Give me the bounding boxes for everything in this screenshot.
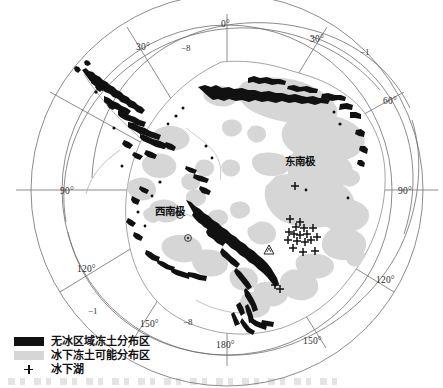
region-label: 西南极 [155, 206, 185, 217]
legend-label-subglacial-permafrost: 冰下冻土可能分布区 [51, 350, 150, 361]
graticule-label: 0° [221, 20, 230, 30]
contour-label: −8 [183, 318, 193, 327]
antarctica-permafrost-map-figure: 0°30°30°60°90°90°120°120°150°150°180° −8… [0, 0, 443, 388]
graticule-label: 90° [60, 187, 74, 197]
graticule-label: 180° [216, 341, 235, 351]
legend-item: 冰下冻土可能分布区 [14, 349, 204, 362]
region-label: 东南极 [285, 156, 315, 167]
graticule-label: 90° [398, 187, 412, 197]
graticule-label: 150° [303, 337, 322, 347]
legend-label-ice-free-permafrost: 无冰区域冻土分布区 [51, 336, 150, 347]
contour-label: −1 [360, 48, 370, 57]
legend-item: 无冰区域冻土分布区 [14, 335, 204, 348]
cropped-caption-strip [8, 378, 338, 385]
legend-item: 冰下湖 [14, 363, 204, 376]
graticule-label: 150° [140, 320, 159, 330]
graticule-label: 120° [77, 265, 96, 275]
map-legend: 无冰区域冻土分布区 冰下冻土可能分布区 冰下湖 [14, 335, 204, 377]
contour-label: −8 [181, 44, 191, 53]
legend-swatch-subglacial-permafrost [14, 351, 44, 360]
graticule-label: 30° [136, 43, 150, 53]
graticule-label: 60° [383, 97, 397, 107]
graticule-label: 30° [310, 35, 324, 45]
legend-swatch-subglacial-lake [14, 365, 44, 374]
graticule-label: 120° [376, 276, 395, 286]
legend-swatch-ice-free-permafrost [14, 337, 44, 346]
contour-label: −1 [88, 307, 98, 316]
legend-label-subglacial-lake: 冰下湖 [51, 364, 84, 375]
